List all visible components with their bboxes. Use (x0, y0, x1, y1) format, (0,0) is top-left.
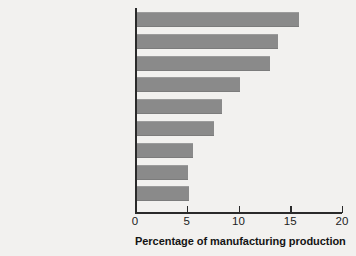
bar (136, 56, 270, 71)
x-axis-tick (342, 206, 343, 213)
x-axis-tick-label: 0 (120, 215, 150, 227)
bar (136, 143, 193, 158)
x-axis-tick-label: 15 (275, 215, 305, 227)
x-axis-title: Percentage of manufacturing production (135, 235, 356, 247)
bar (136, 165, 188, 180)
x-axis-tick (135, 206, 136, 213)
x-axis-tick-label: 20 (327, 215, 356, 227)
bar (136, 34, 278, 49)
x-axis-tick-label: 5 (172, 215, 202, 227)
plot-area: Chemicals Computers Food and drink Petro… (0, 0, 356, 256)
bar (136, 99, 222, 114)
bar (136, 77, 240, 92)
bar (136, 186, 189, 201)
x-axis-tick-label: 10 (224, 215, 254, 227)
bar-chart-figure: Chemicals Computers Food and drink Petro… (0, 0, 356, 256)
bar (136, 121, 214, 136)
bar (136, 12, 299, 27)
x-axis-tick (187, 206, 188, 213)
x-axis-tick (239, 206, 240, 213)
y-axis-line (135, 8, 137, 212)
x-axis-tick (290, 206, 291, 213)
